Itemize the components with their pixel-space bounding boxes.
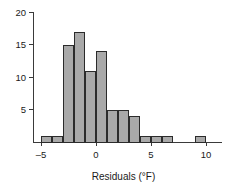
- x-tick-label: –5: [36, 149, 47, 160]
- y-tick-label: 20: [15, 7, 26, 18]
- y-tick-label: 5: [21, 104, 26, 115]
- histogram-bar: [97, 52, 107, 143]
- histogram-figure: 5101520–50510Residuals (°F): [0, 0, 230, 187]
- y-tick-label: 10: [15, 72, 26, 83]
- histogram-bar: [163, 136, 173, 142]
- x-tick-label: 10: [201, 149, 212, 160]
- histogram-bar: [53, 136, 63, 142]
- histogram-bar: [108, 110, 118, 142]
- histogram-bar: [75, 32, 85, 142]
- histogram-bar: [130, 117, 140, 143]
- x-tick-label: 5: [148, 149, 153, 160]
- histogram-bar: [141, 136, 151, 142]
- histogram-bar: [196, 136, 206, 142]
- histogram-bar: [64, 45, 74, 142]
- y-tick-label: 15: [15, 39, 26, 50]
- x-axis-title: Residuals (°F): [92, 171, 155, 182]
- histogram-bar: [119, 110, 129, 142]
- histogram-bar: [42, 136, 52, 142]
- x-tick-label: 0: [93, 149, 98, 160]
- histogram-bar: [86, 71, 96, 142]
- histogram-bar: [152, 136, 162, 142]
- residuals-histogram: 5101520–50510Residuals (°F): [0, 0, 230, 187]
